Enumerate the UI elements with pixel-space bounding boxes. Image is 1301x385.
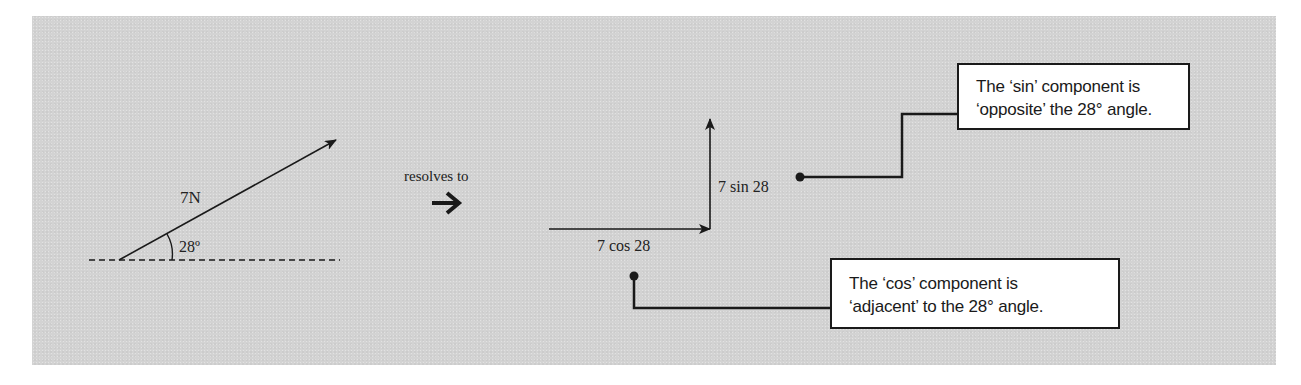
cos-callout-line2: ‘adjacent’ to the 28° angle.: [849, 295, 1104, 318]
sin-callout-line1: The ‘sin’ component is: [976, 75, 1174, 98]
angle-arc: [167, 234, 172, 260]
transition: resolves to: [404, 168, 469, 213]
horizontal-component-label: 7 cos 28: [597, 237, 650, 254]
resolved-components: 7 cos 28 7 sin 28: [549, 119, 769, 254]
sin-callout-line2: ‘opposite’ the 28° angle.: [976, 98, 1174, 121]
cos-callout-line1: The ‘cos’ component is: [849, 272, 1104, 295]
vertical-component-label: 7 sin 28: [718, 178, 769, 195]
cos-callout-box: The ‘cos’ component is ‘adjacent’ to the…: [830, 258, 1120, 329]
sin-callout-box: The ‘sin’ component is ‘opposite’ the 28…: [957, 63, 1190, 130]
force-magnitude-label: 7N: [180, 188, 201, 207]
right-arrow-icon: [432, 193, 459, 213]
angle-label: 28º: [179, 238, 200, 255]
sin-leader-line: [796, 114, 960, 182]
original-force: 7N 28º: [89, 140, 340, 260]
resolves-to-label: resolves to: [404, 168, 469, 184]
cos-leader-line: [630, 272, 833, 309]
force-vector-arrow: [119, 140, 336, 260]
